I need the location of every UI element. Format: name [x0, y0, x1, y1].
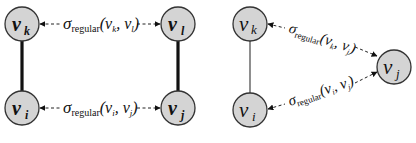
svg-text:k: k: [251, 22, 257, 37]
node-vk-right: v k: [233, 7, 267, 41]
edge-label-vi-vj-right: σregular(vi, vj): [286, 73, 356, 111]
svg-text:v: v: [383, 55, 393, 79]
svg-text:v: v: [168, 13, 178, 35]
edge-label-vi-vj: σregular(vi, vj): [63, 98, 138, 118]
svg-text:v: v: [239, 12, 249, 36]
svg-text:v: v: [12, 97, 22, 119]
svg-text:v: v: [12, 13, 22, 35]
dashed-edge-vi-vj-a: [268, 104, 285, 109]
edge-label-vk-vl: σregular(vk, vl): [63, 14, 139, 34]
node-vi-left: v i: [5, 91, 39, 125]
graph-diagram: σregular(vk, vl) σregular(vi, vj) v k v …: [0, 0, 416, 143]
node-vl-left: v l: [161, 7, 195, 41]
left-diagram: σregular(vk, vl) σregular(vi, vj) v k v …: [5, 7, 195, 125]
node-vk-left: v k: [5, 7, 39, 41]
svg-text:i: i: [252, 109, 256, 124]
edge-label-vk-vj: σregular(vk, vj): [286, 20, 358, 59]
dashed-edge-vi-vj-b: [355, 72, 377, 83]
svg-text:v: v: [239, 98, 249, 122]
svg-text:k: k: [24, 24, 30, 38]
node-vj-right: v j: [377, 50, 411, 84]
node-vi-right: v i: [233, 93, 267, 127]
dashed-edge-vk-vj-a: [268, 24, 285, 28]
node-vj-left: v j: [161, 91, 195, 125]
right-diagram: σregular(vk, vj) σregular(vi, vj) v k v …: [233, 7, 411, 127]
svg-text:v: v: [168, 97, 178, 119]
dashed-edge-vk-vj-b: [355, 47, 377, 56]
